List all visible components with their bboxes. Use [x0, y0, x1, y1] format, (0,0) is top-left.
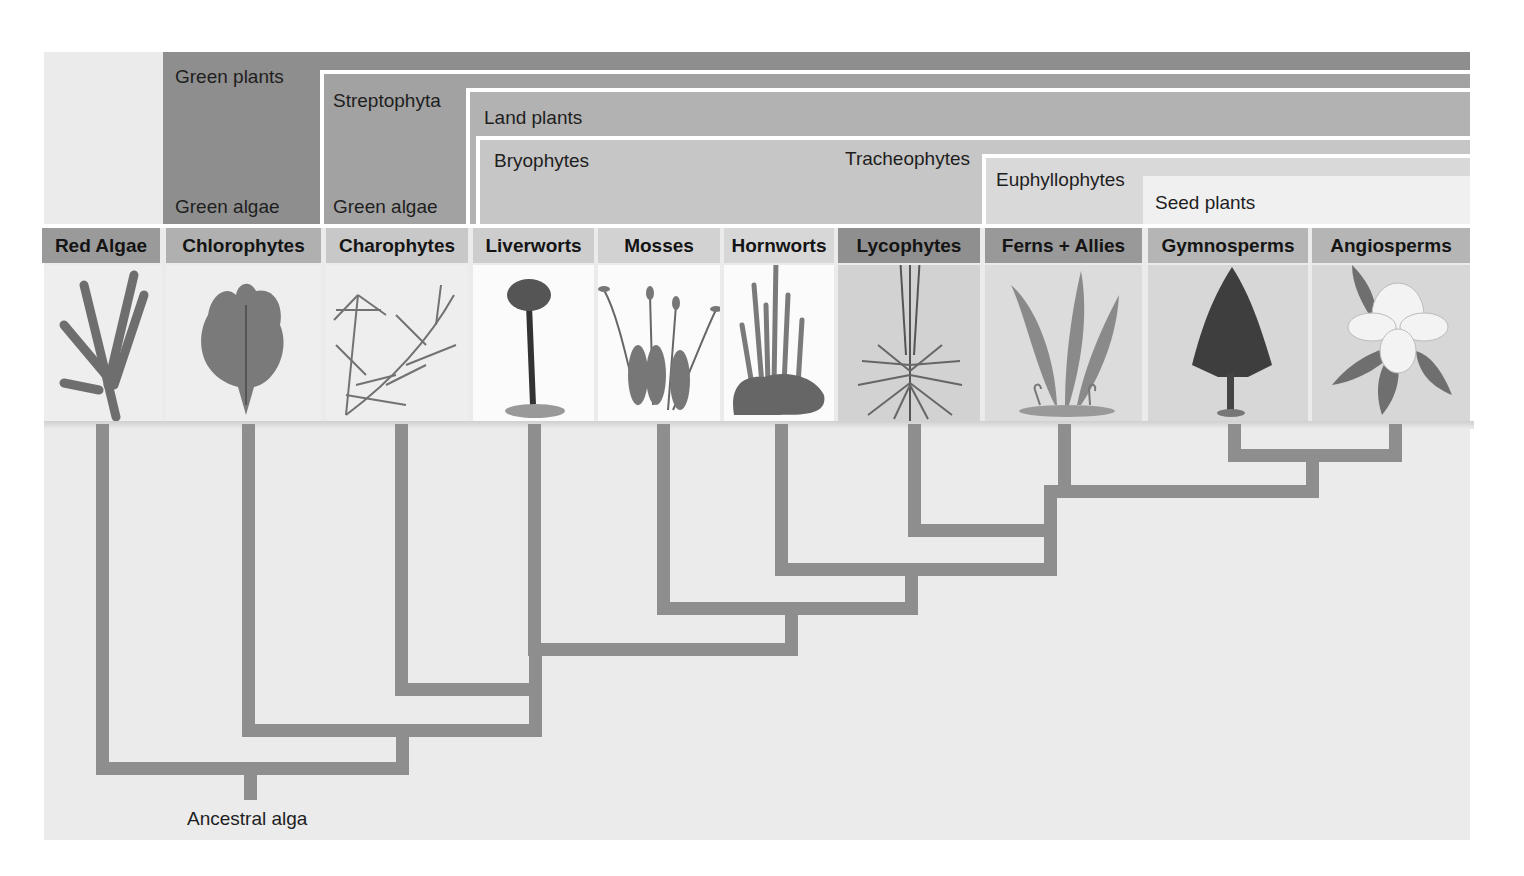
- clubmoss-icon: [838, 265, 980, 421]
- taxon-label-chlorophytes: Chlorophytes: [166, 228, 321, 263]
- root-stem: [244, 775, 257, 800]
- taxon-label-angiosperms: Angiosperms: [1312, 228, 1470, 263]
- taxon-label-charophytes: Charophytes: [326, 228, 468, 263]
- node-tracheophytes: [908, 524, 1057, 537]
- clade-label-tracheophytes: Tracheophytes: [845, 148, 970, 170]
- liverwort-icon: [473, 265, 594, 421]
- branch-liverworts: [528, 424, 541, 656]
- clade-label-bryophytes: Bryophytes: [494, 150, 589, 172]
- clade-label-land-plants: Land plants: [484, 107, 582, 129]
- node-land-plants: [528, 643, 798, 656]
- branch-lycophytes: [908, 424, 921, 537]
- branch-mosses: [657, 424, 670, 615]
- clade-band-red-algae-blank: [44, 52, 159, 224]
- stonewort-icon: [326, 265, 468, 421]
- taxon-label-ferns-allies: Ferns + Allies: [985, 228, 1142, 263]
- branch-hornworts: [775, 424, 788, 576]
- taxon-label-lycophytes: Lycophytes: [838, 228, 980, 263]
- clade-label-green-plants: Green plants: [175, 66, 284, 88]
- taxon-label-liverworts: Liverworts: [473, 228, 594, 263]
- branch-charophytes: [395, 424, 408, 696]
- node-euphyllophytes: [1058, 485, 1319, 498]
- taxon-label-red-algae: Red Algae: [42, 228, 160, 263]
- red-alga-icon: [44, 265, 162, 421]
- clade-label-streptophyta: Streptophyta: [333, 90, 441, 112]
- taxon-label-gymnosperms: Gymnosperms: [1148, 228, 1308, 263]
- fern-icon: [985, 265, 1142, 421]
- branch-chlorophytes: [242, 424, 255, 737]
- sea-lettuce-icon: [166, 265, 321, 421]
- image-row-shadow: [44, 421, 1474, 429]
- taxon-label-mosses: Mosses: [598, 228, 720, 263]
- hornwort-icon: [724, 265, 834, 421]
- root-label-ancestral-alga: Ancestral alga: [187, 808, 307, 830]
- moss-icon: [598, 265, 720, 421]
- conifer-tree-icon: [1148, 265, 1308, 421]
- clade-label-euphyllophytes: Euphyllophytes: [996, 169, 1125, 191]
- node-streptophyta: [395, 683, 542, 696]
- branch-red-algae: [96, 424, 109, 775]
- taxon-label-hornworts: Hornworts: [724, 228, 834, 263]
- node-green-plants: [242, 724, 542, 737]
- clade-sublabel-green-algae-2: Green algae: [333, 196, 438, 218]
- stem-euph-join: [1044, 485, 1071, 498]
- clade-label-seed-plants: Seed plants: [1155, 192, 1255, 214]
- clade-sublabel-green-algae-1: Green algae: [175, 196, 280, 218]
- magnolia-flower-icon: [1312, 265, 1470, 421]
- node-root: [96, 762, 409, 775]
